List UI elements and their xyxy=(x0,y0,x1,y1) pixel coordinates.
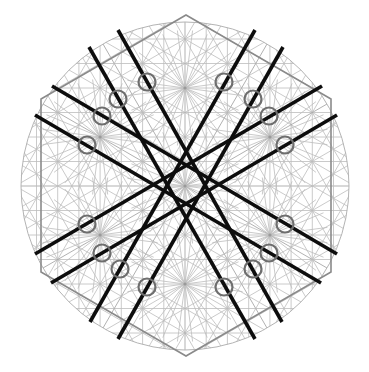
grid-node xyxy=(183,86,186,89)
grid-line xyxy=(24,32,241,157)
grid-node xyxy=(99,233,102,236)
grid-node xyxy=(183,184,186,187)
grid-node xyxy=(183,282,186,285)
grid-node xyxy=(268,233,271,236)
geometric-diagram xyxy=(0,0,369,372)
grid-node xyxy=(268,135,271,138)
grid-node xyxy=(99,135,102,138)
